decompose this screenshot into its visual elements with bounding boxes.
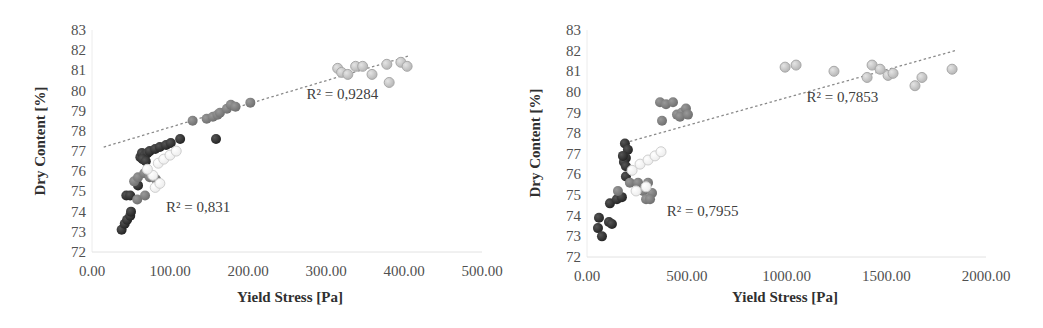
r-squared-label: R² = 0,831 — [166, 199, 230, 215]
x-axis-title: Yield Stress [Pa] — [237, 289, 343, 305]
x-tick-label: 2000.00 — [962, 268, 1011, 284]
data-point — [607, 219, 617, 229]
x-tick-label: 1500.00 — [862, 268, 911, 284]
y-tick-label: 73 — [71, 224, 86, 240]
y-tick-label: 78 — [71, 123, 86, 139]
data-point — [862, 72, 872, 82]
data-point — [367, 69, 377, 79]
data-points — [593, 60, 957, 241]
data-point — [382, 59, 392, 69]
x-tick-label: 1000.00 — [762, 268, 811, 284]
data-point — [631, 186, 641, 196]
data-point — [175, 134, 185, 144]
data-points — [117, 57, 412, 235]
y-tick-label: 83 — [71, 22, 86, 38]
y-tick-label: 77 — [566, 146, 582, 162]
x-tick-label: 500.00 — [461, 263, 502, 279]
chart-right: 727374757677787980818283 0.00500.001000.… — [527, 22, 1010, 305]
data-point — [142, 164, 152, 174]
y-tick-label: 81 — [566, 63, 581, 79]
y-tick-label: 77 — [71, 143, 87, 159]
series-light-outline — [627, 147, 666, 196]
data-point — [384, 77, 394, 87]
x-tick-label: 100.00 — [149, 263, 190, 279]
data-point — [829, 66, 839, 76]
y-tick-label: 78 — [566, 125, 581, 141]
r2-annotations: R² = 0,831R² = 0,9284 — [166, 86, 379, 215]
x-tick-label: 0.00 — [574, 268, 600, 284]
y-tick-label: 80 — [71, 83, 86, 99]
data-point — [343, 69, 353, 79]
data-point — [791, 60, 801, 70]
data-point — [657, 116, 667, 126]
y-tick-label: 74 — [566, 208, 582, 224]
chart-left: 727374757677787980818283 0.00100.00200.0… — [32, 22, 503, 305]
data-point — [683, 110, 693, 120]
plot-area-frame — [92, 30, 482, 252]
data-point — [613, 186, 623, 196]
data-point — [358, 61, 368, 71]
data-point — [618, 151, 628, 161]
y-tick-label: 83 — [566, 22, 581, 38]
figure: 727374757677787980818283 0.00100.00200.0… — [0, 0, 1043, 328]
data-point — [245, 98, 255, 108]
x-tick-labels: 0.00100.00200.00300.00400.00500.00 — [79, 263, 503, 279]
y-tick-labels: 727374757677787980818283 — [566, 22, 582, 265]
r-squared-label: R² = 0,7853 — [806, 89, 878, 105]
x-tick-label: 0.00 — [79, 263, 105, 279]
x-tick-labels: 0.00500.001000.001500.002000.00 — [574, 268, 1011, 284]
series-light-gray — [333, 57, 412, 87]
data-point — [947, 64, 957, 74]
x-tick-label: 400.00 — [383, 263, 424, 279]
data-point — [402, 61, 412, 71]
r2-annotations: R² = 0,7955R² = 0,7853 — [667, 89, 878, 219]
y-tick-label: 82 — [566, 43, 581, 59]
y-tick-label: 72 — [71, 244, 86, 260]
y-tick-label: 76 — [566, 166, 582, 182]
data-point — [594, 213, 604, 223]
y-tick-label: 75 — [566, 187, 581, 203]
data-point — [910, 81, 920, 91]
y-tick-label: 73 — [566, 228, 581, 244]
y-tick-label: 74 — [71, 204, 87, 220]
y-tick-label: 75 — [71, 183, 86, 199]
data-point — [888, 68, 898, 78]
data-point — [656, 147, 666, 157]
x-tick-label: 500.00 — [666, 268, 707, 284]
y-tick-label: 80 — [566, 84, 581, 100]
y-tick-label: 79 — [71, 103, 86, 119]
y-axis-title: Dry Content [%] — [527, 88, 543, 197]
data-point — [155, 178, 165, 188]
data-point — [211, 134, 221, 144]
data-point — [917, 72, 927, 82]
data-point — [645, 194, 655, 204]
y-tick-label: 72 — [566, 249, 581, 265]
data-point — [188, 116, 198, 126]
data-point — [597, 231, 607, 241]
y-tick-label: 76 — [71, 163, 87, 179]
data-point — [780, 62, 790, 72]
data-point — [641, 182, 651, 192]
series-light-gray — [780, 60, 957, 91]
data-point — [231, 102, 241, 112]
y-tick-label: 79 — [566, 105, 581, 121]
x-tick-label: 200.00 — [227, 263, 268, 279]
x-axis-title: Yield Stress [Pa] — [732, 289, 838, 305]
y-axis-title: Dry Content [%] — [32, 86, 48, 195]
series-dark — [593, 139, 633, 242]
r-squared-label: R² = 0,7955 — [667, 203, 739, 219]
r-squared-label: R² = 0,9284 — [307, 86, 379, 102]
y-tick-label: 81 — [71, 62, 86, 78]
data-point — [668, 97, 678, 107]
y-tick-label: 82 — [71, 42, 86, 58]
x-tick-label: 300.00 — [305, 263, 346, 279]
data-point — [126, 207, 136, 217]
y-tick-labels: 727374757677787980818283 — [71, 22, 87, 260]
data-point — [140, 190, 150, 200]
data-point — [171, 146, 181, 156]
